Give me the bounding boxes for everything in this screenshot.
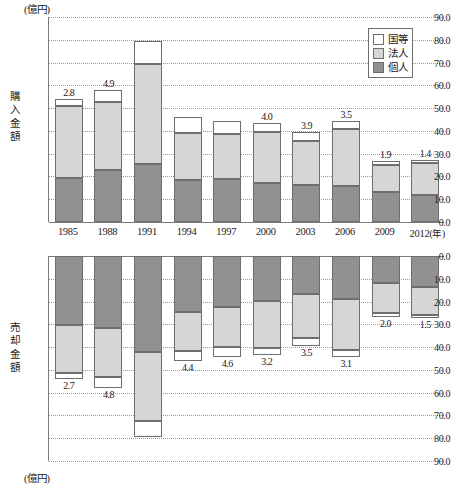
bar-value-label: 4.8 [94, 389, 122, 400]
bar-segment-hojin [174, 312, 202, 351]
bar-segment-hojin [253, 132, 281, 183]
bar-segment-kuni [213, 347, 241, 357]
bar-value-label: 2.8 [55, 87, 83, 98]
bar-segment-kuni [134, 421, 162, 437]
bar-segment-hojin [55, 325, 83, 373]
bar-value-label: 4.4 [174, 362, 202, 373]
bar-segment-kojin [332, 256, 360, 299]
y-axis-tick-label: 90.0 [416, 456, 450, 467]
bar-segment-hojin [94, 328, 122, 376]
bar-segment-kuni [292, 132, 320, 141]
bar-group: 24.517.24.4 [174, 256, 202, 461]
legend-item-kuni: 国等 [373, 32, 407, 46]
bar-segment-kuni [372, 313, 400, 318]
unit-label-top: (億円) [24, 1, 50, 16]
bar-segment-kojin [332, 186, 360, 222]
y-axis-tick-label: 40.0 [416, 125, 450, 136]
bar-group: 16.419.23.9 [292, 17, 320, 222]
bar-segment-kojin [174, 180, 202, 222]
bar-segment-hojin [332, 299, 360, 350]
bar-group: 13.512.41.5 [411, 256, 439, 461]
bar-group: 12.012.92.0 [372, 256, 400, 461]
bar-group: 42.130.47.1 [134, 256, 162, 461]
bar-segment-kuni [94, 377, 122, 388]
bar-segment-hojin [292, 294, 320, 338]
bar-group: 16.519.53.5 [292, 256, 320, 461]
legend-label: 法人 [388, 48, 407, 59]
bar-segment-hojin [134, 64, 162, 164]
x-axis-category-1997: 1997 [206, 226, 246, 237]
bar-group: 30.320.92.7 [55, 256, 83, 461]
bar-value-label: 3.5 [332, 109, 360, 120]
y-axis-title-bottom: 売却金額 [8, 321, 21, 375]
legend-item-kojin: 個人 [373, 60, 407, 74]
y-axis-tick-label: 20.0 [416, 296, 450, 307]
legend-label: 個人 [388, 62, 407, 73]
bar-value-label: 3.5 [292, 347, 320, 358]
plot-area-sale: 30.320.92.731.821.24.842.130.47.124.517.… [48, 256, 444, 461]
y-axis-title-top: 購入金額 [8, 90, 21, 144]
bar-value-label: 4.6 [213, 358, 241, 369]
x-axis-category-labels: 1985198819911994199720002003200620092012… [48, 226, 444, 242]
y-axis-tick-label: 90.0 [416, 12, 450, 23]
bar-group: 17.122.44.0 [253, 17, 281, 222]
y-axis-tick-label: 60.0 [416, 387, 450, 398]
bar-segment-kuni [55, 373, 83, 379]
bar-segment-hojin [372, 165, 400, 192]
bar-group: 22.417.54.6 [213, 256, 241, 461]
bar-value-label: 3.2 [253, 356, 281, 367]
bar-segment-kojin [55, 256, 83, 325]
bar-group: 22.830.14.9 [94, 17, 122, 222]
y-axis-tick-label: 50.0 [416, 103, 450, 114]
bar-segment-kojin [372, 256, 400, 283]
y-axis-tick-label: 40.0 [416, 342, 450, 353]
y-axis-tick-label: 30.0 [416, 148, 450, 159]
bar-value-label: 2.0 [372, 318, 400, 329]
bar-segment-hojin [134, 352, 162, 421]
bar-segment-kojin [292, 256, 320, 294]
bar-segment-hojin [292, 141, 320, 185]
x-axis-category-2006: 2006 [325, 226, 365, 237]
bar-group: 25.443.810.4 [134, 17, 162, 222]
legend-item-hojin: 法人 [373, 46, 407, 60]
unit-label-bottom: (億円) [24, 470, 50, 485]
x-axis-category-1994: 1994 [167, 226, 207, 237]
bar-segment-kuni [94, 90, 122, 101]
bar-segment-kojin [372, 192, 400, 222]
bar-segment-kuni [411, 160, 439, 163]
y-axis-tick-label: 70.0 [416, 410, 450, 421]
y-axis-tick-label: 80.0 [416, 433, 450, 444]
bar-segment-kojin [213, 256, 241, 307]
bar-segment-kuni [332, 350, 360, 357]
bar-segment-kuni [253, 123, 281, 132]
bar-value-label: 2.7 [55, 380, 83, 391]
bar-value-label: 3.9 [292, 120, 320, 131]
x-axis-category-1985: 1985 [48, 226, 88, 237]
bar-segment-hojin [213, 307, 241, 347]
bar-segment-hojin [174, 133, 202, 180]
x-axis-category-2012: 2012(年) [396, 226, 455, 240]
bar-value-label: 1.9 [372, 149, 400, 160]
x-axis-category-1988: 1988 [88, 226, 128, 237]
x-axis-category-1991: 1991 [127, 226, 167, 237]
bar-segment-kojin [253, 256, 281, 301]
gridline [49, 222, 444, 223]
legend-swatch-icon [373, 48, 384, 59]
bar-value-label: 3.1 [332, 358, 360, 369]
bar-segment-kojin [134, 256, 162, 352]
bar-group: 18.620.57.0 [174, 17, 202, 222]
gridline [49, 461, 444, 462]
bar-segment-hojin [332, 129, 360, 186]
bar-group: 15.824.93.5 [332, 17, 360, 222]
bar-segment-kuni [174, 117, 202, 133]
legend-swatch-icon [373, 34, 384, 45]
y-axis-tick-label: 0.0 [416, 251, 450, 262]
x-axis-category-2003: 2003 [286, 226, 326, 237]
bar-segment-hojin [55, 106, 83, 178]
y-axis-tick-label: 80.0 [416, 34, 450, 45]
y-axis-tick-label: 10.0 [416, 194, 450, 205]
y-axis-tick-label: 70.0 [416, 57, 450, 68]
bar-group: 31.821.24.8 [94, 256, 122, 461]
bar-segment-kojin [94, 256, 122, 328]
